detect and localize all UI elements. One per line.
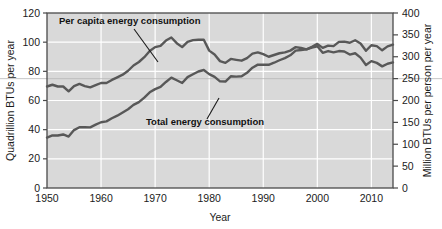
y-axis-title-left: Quadrillion BTUs per year — [4, 40, 16, 161]
y-axis-tick-label-left: 120 — [22, 7, 40, 19]
x-axis-tick-label: 1950 — [35, 192, 59, 204]
y-axis-tick-label-left: 60 — [28, 94, 40, 106]
y-axis-tick-label-right: 200 — [402, 94, 420, 106]
chart-canvas: 0204060801001200501001502002503003504001… — [0, 0, 442, 229]
y-axis-tick-label-left: 20 — [28, 152, 40, 164]
y-axis-tick-label-left: 40 — [28, 123, 40, 135]
x-axis-title: Year — [209, 211, 231, 223]
y-axis-tick-label-right: 0 — [402, 182, 408, 194]
y-axis-tick-label-right: 350 — [402, 28, 420, 40]
y-axis-tick-label-right: 400 — [402, 7, 420, 19]
x-axis-tick-label: 2000 — [306, 192, 330, 204]
annotation-total-label: Total energy consumption — [146, 116, 264, 127]
x-axis-tick-label: 1990 — [252, 192, 276, 204]
y-axis-tick-label-right: 300 — [402, 50, 420, 62]
y-axis-tick-label-right: 250 — [402, 72, 420, 84]
x-axis-tick-label: 1960 — [89, 192, 113, 204]
y-axis-tick-label-right: 100 — [402, 138, 420, 150]
energy-consumption-chart: 0204060801001200501001502002503003504001… — [0, 0, 442, 229]
y-axis-tick-label-right: 150 — [402, 116, 420, 128]
x-axis-tick-label: 1980 — [198, 192, 222, 204]
y-axis-tick-label-left: 80 — [28, 65, 40, 77]
x-axis-tick-label: 2010 — [360, 192, 384, 204]
y-axis-title-right: Million BTUs per person per year — [421, 23, 433, 177]
y-axis-tick-label-left: 100 — [22, 36, 40, 48]
x-axis-tick-label: 1970 — [143, 192, 167, 204]
annotation-per-capita-label: Per capita energy consumption — [59, 15, 201, 26]
y-axis-tick-label-right: 50 — [402, 160, 414, 172]
